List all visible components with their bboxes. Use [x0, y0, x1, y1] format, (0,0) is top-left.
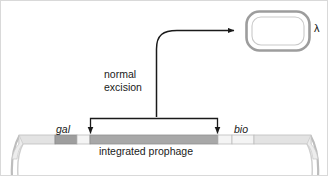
bio-gene-block — [232, 135, 254, 144]
gal-gene-label: gal — [56, 123, 70, 136]
excision-diagram: normal excision gal bio integrated proph… — [0, 0, 328, 176]
bio-gene-label: bio — [234, 123, 248, 136]
gal-gene-block — [55, 135, 77, 144]
excised-lambda-circle — [247, 12, 310, 51]
excision-bracket — [91, 119, 218, 134]
normal-excision-label: normal excision — [104, 68, 142, 94]
lambda-label: λ — [314, 22, 320, 35]
left-spacer-block — [77, 135, 90, 144]
excision-curved-arrow — [157, 31, 235, 118]
excision-curved-arrow-path — [157, 31, 235, 118]
right-spacer-block — [218, 135, 232, 144]
chromosome-left-arm — [19, 135, 55, 144]
lambda-circle-inner — [252, 17, 304, 45]
integrated-prophage-label: integrated prophage — [99, 145, 193, 158]
integrated-prophage-block — [90, 135, 218, 144]
chromosome-segments — [19, 135, 311, 144]
chromosome-right-arm — [254, 135, 311, 144]
excision-bracket-path — [91, 119, 218, 133]
